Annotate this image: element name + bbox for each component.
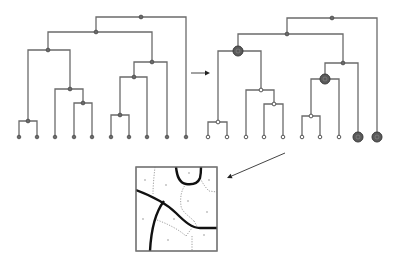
internal-node <box>309 114 313 118</box>
seed-point <box>144 179 146 181</box>
seed-point <box>142 218 144 220</box>
internal-node <box>285 32 289 36</box>
original-dendrogram <box>17 15 188 139</box>
internal-node <box>216 120 220 124</box>
arrows <box>191 71 285 179</box>
highlighted-leaf-node <box>353 132 363 142</box>
tree-edge <box>264 104 283 137</box>
internal-node <box>118 113 122 117</box>
partition-arrow <box>232 153 285 176</box>
leaf-node <box>72 135 76 139</box>
internal-node <box>341 61 345 65</box>
tree-edge <box>19 121 37 137</box>
leaf-node <box>165 135 169 139</box>
voronoi-partition <box>136 167 217 251</box>
seed-point <box>206 211 208 213</box>
leaf-node <box>262 135 266 139</box>
seed-point <box>208 179 210 181</box>
leaf-node <box>35 135 39 139</box>
leaf-node <box>109 135 113 139</box>
tree-edge <box>218 51 261 122</box>
leaf-node <box>145 135 149 139</box>
tree-edge <box>134 62 167 137</box>
internal-node <box>139 15 143 19</box>
leaf-node <box>337 135 341 139</box>
tree-edge <box>55 89 83 137</box>
leaf-node <box>281 135 285 139</box>
seed-point <box>187 200 189 202</box>
internal-node <box>150 60 154 64</box>
selected-cluster-node <box>233 46 243 56</box>
seed-point <box>203 234 205 236</box>
internal-node <box>94 30 98 34</box>
tree-edge <box>325 63 358 137</box>
tree-edge <box>238 34 343 63</box>
tree-edge <box>311 79 339 137</box>
tree-edge <box>74 103 92 137</box>
tree-edge <box>48 32 152 62</box>
internal-node <box>81 101 85 105</box>
seed-point <box>173 218 175 220</box>
highlighted-leaf-node <box>372 132 382 142</box>
tree-edge <box>302 116 320 137</box>
leaf-node <box>225 135 229 139</box>
diagram-canvas <box>0 0 400 264</box>
leaf-node <box>90 135 94 139</box>
tree-edge <box>28 50 70 121</box>
leaf-node <box>17 135 21 139</box>
leaf-node <box>206 135 210 139</box>
leaf-node <box>127 135 131 139</box>
cut-dendrogram <box>206 16 382 142</box>
leaf-node <box>244 135 248 139</box>
leaf-node <box>184 135 188 139</box>
internal-node <box>68 87 72 91</box>
leaf-node <box>300 135 304 139</box>
internal-node <box>259 88 263 92</box>
internal-node <box>26 119 30 123</box>
partition-frame <box>136 167 217 251</box>
internal-node <box>330 16 334 20</box>
internal-node <box>132 75 136 79</box>
seed-point <box>165 184 167 186</box>
leaf-node <box>318 135 322 139</box>
selected-cluster-node <box>320 74 330 84</box>
tree-edge <box>287 18 377 137</box>
internal-node <box>46 48 50 52</box>
internal-node <box>272 102 276 106</box>
leaf-node <box>53 135 57 139</box>
tree-edge <box>246 90 274 137</box>
tree-edge <box>120 77 147 137</box>
seed-point <box>167 239 169 241</box>
seed-point <box>188 172 190 174</box>
tree-edge <box>111 115 129 137</box>
arrowhead-icon <box>205 71 210 76</box>
